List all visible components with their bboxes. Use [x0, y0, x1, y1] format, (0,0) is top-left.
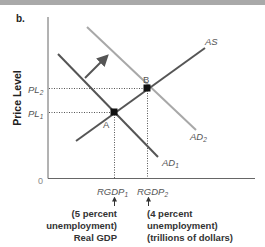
as-label: AS	[204, 36, 218, 47]
point-a-label: A	[103, 119, 110, 130]
x-axis-title: Real GDP	[74, 232, 118, 243]
point-a-marker	[111, 109, 118, 116]
y-axis-title: Price Level	[11, 70, 23, 126]
shift-arrow	[85, 57, 106, 78]
origin-label: 0	[38, 176, 43, 186]
ad2-label: AD2	[189, 131, 207, 143]
ad2-curve	[87, 27, 196, 130]
rgdp2-label: RGDP2	[137, 186, 168, 198]
as-curve	[76, 48, 205, 141]
pl1-label: PL1	[28, 108, 44, 120]
rgdp2-note-line2: unemployment)	[147, 220, 218, 231]
rgdp1-note-line1: (5 percent	[72, 208, 118, 219]
rgdp2-note-line1: (4 percent	[147, 208, 193, 219]
rgdp1-label: RGDP1	[97, 186, 128, 198]
point-b-marker	[144, 85, 151, 92]
x-axis-units: (trillions of dollars)	[147, 232, 233, 243]
ad-as-diagram: b. Price Level 0 A B AS AD2 AD1 PL2 PL1 …	[0, 0, 265, 247]
point-b-label: B	[143, 74, 149, 85]
rgdp1-note-line2: unemployment)	[46, 220, 117, 231]
pl2-label: PL2	[28, 84, 44, 96]
ad1-label: AD1	[161, 157, 179, 169]
panel-label: b.	[16, 13, 25, 24]
ad1-curve	[58, 54, 158, 157]
